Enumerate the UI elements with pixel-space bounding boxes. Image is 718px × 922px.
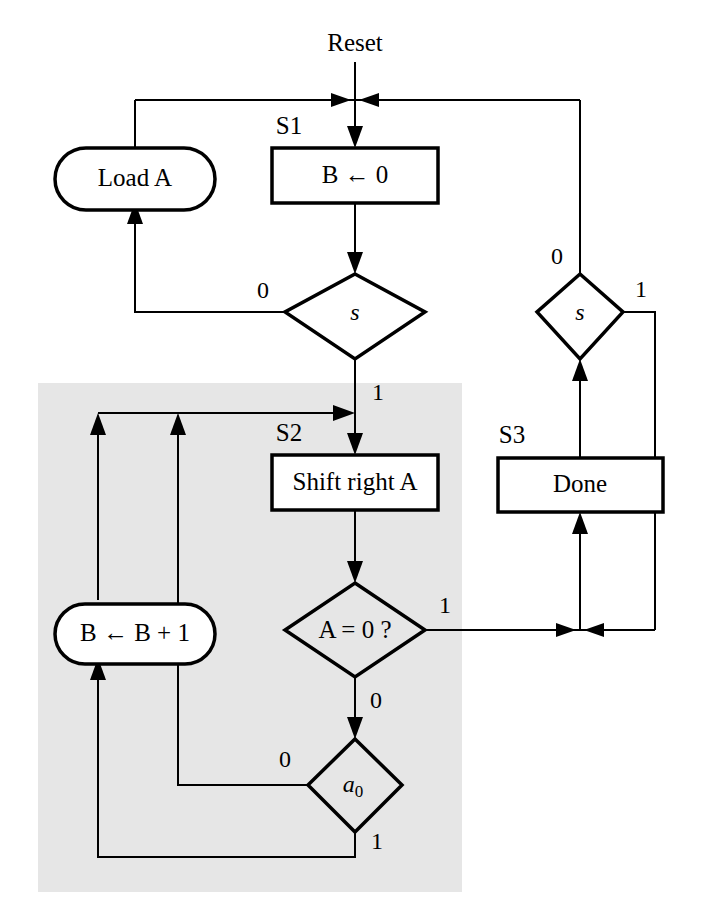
node-b-increment-label: B ← B + 1 — [80, 619, 190, 646]
edge-label-a0-false: 0 — [279, 746, 291, 772]
flowchart-diagram: Load A S1 B ← 0 s 0 1 s 0 1 S2 Shift rig… — [0, 0, 718, 922]
state-label-s3: S3 — [499, 421, 525, 448]
edge-label-a-zero-false: 0 — [370, 687, 382, 713]
edge-label-s-right-false: 0 — [551, 243, 563, 269]
node-decision-a0-subscript: 0 — [355, 782, 364, 801]
edge-label-s-right-true: 1 — [635, 276, 647, 302]
edge-label-s-left-true: 1 — [372, 379, 384, 405]
node-done-label: Done — [553, 470, 607, 497]
node-decision-s-left-label: s — [350, 299, 359, 325]
node-decision-a0-letter: a — [343, 771, 355, 797]
arrowhead-merge-left — [331, 93, 351, 107]
node-b-clear-label: B ← 0 — [322, 161, 389, 188]
edge-label-a0-true: 1 — [371, 828, 383, 854]
node-decision-a-zero-label: A = 0 ? — [318, 616, 391, 643]
node-shift-right-a-label: Shift right A — [292, 468, 417, 495]
node-decision-s-right-label: s — [575, 299, 584, 325]
node-load-a-label: Load A — [98, 164, 172, 191]
state-label-s1: S1 — [276, 112, 302, 139]
arrowhead-into-done — [572, 512, 588, 534]
arrowhead-s1-to-decision-s — [347, 252, 363, 274]
arrowhead-into-s-right — [572, 359, 588, 381]
arrowhead-to-s1 — [347, 126, 363, 148]
edge-label-a-zero-true: 1 — [439, 592, 451, 618]
entry-label-reset: Reset — [327, 29, 383, 56]
edge-label-s-left-false: 0 — [257, 277, 269, 303]
state-label-s2: S2 — [276, 419, 302, 446]
flowchart-canvas: Load A S1 B ← 0 s 0 1 s 0 1 S2 Shift rig… — [0, 0, 718, 922]
arrowhead-merge-right — [359, 93, 379, 107]
arrowhead-done-merge-right — [584, 623, 604, 637]
arrowhead-done-merge-left — [556, 623, 576, 637]
